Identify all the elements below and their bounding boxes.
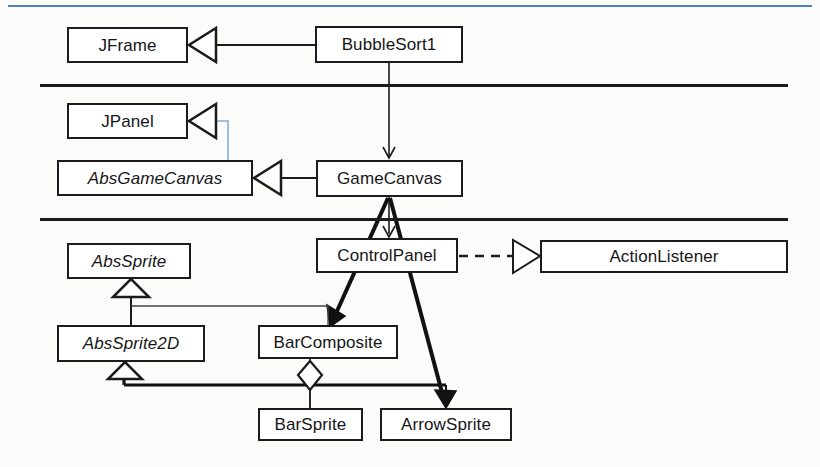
layer-separator-1 xyxy=(40,84,788,87)
class-name-bubblesort1: BubbleSort1 xyxy=(338,36,441,53)
connector-controlpanel-implements-actionlistener xyxy=(459,240,540,273)
layer-separator-2 xyxy=(40,218,788,221)
class-box-arrowsprite[interactable]: ArrowSprite xyxy=(380,408,512,441)
uml-diagram-canvas: GameCanvas (vertical open arrow) --> Con… xyxy=(0,0,820,467)
connector-bubblesort1-uses-gamecanvas xyxy=(383,63,395,158)
class-name-arrowsprite: ArrowSprite xyxy=(397,416,495,433)
class-box-abssprite2d[interactable]: AbsSprite2D xyxy=(57,325,205,362)
class-box-jpanel[interactable]: JPanel xyxy=(67,103,188,139)
class-box-absgamecanvas[interactable]: AbsGameCanvas xyxy=(57,160,253,196)
class-box-bubblesort1[interactable]: BubbleSort1 xyxy=(315,26,463,63)
class-box-controlpanel[interactable]: ControlPanel xyxy=(316,238,458,273)
top-blue-rule xyxy=(8,5,812,7)
connector-absgamecanvas-extends-jpanel xyxy=(189,104,228,160)
class-name-jpanel: JPanel xyxy=(97,113,158,130)
connector-sprites-extend-abssprite2d xyxy=(108,362,446,408)
connector-gamecanvas-uses-arrowsprite xyxy=(390,198,456,408)
connector-abssprite2d-extends-abssprite xyxy=(113,279,328,325)
connector-gamecanvas-extends-absgamecanvas xyxy=(254,161,316,195)
class-box-abssprite[interactable]: AbsSprite xyxy=(67,243,191,279)
class-box-barsprite[interactable]: BarSprite xyxy=(258,408,363,441)
class-name-controlpanel: ControlPanel xyxy=(333,247,440,264)
class-box-gamecanvas[interactable]: GameCanvas xyxy=(316,160,463,197)
class-name-gamecanvas: GameCanvas xyxy=(333,170,446,187)
class-name-abssprite: AbsSprite xyxy=(88,253,171,270)
class-box-barcomposite[interactable]: BarComposite xyxy=(258,325,398,359)
class-name-actionlistener: ActionListener xyxy=(605,248,722,265)
class-box-jframe[interactable]: JFrame xyxy=(67,27,188,63)
class-name-barcomposite: BarComposite xyxy=(270,334,387,351)
class-name-abssprite2d: AbsSprite2D xyxy=(79,335,184,352)
class-name-jframe: JFrame xyxy=(94,37,160,54)
class-name-barsprite: BarSprite xyxy=(271,416,351,433)
class-box-actionlistener[interactable]: ActionListener xyxy=(540,240,788,273)
class-name-absgamecanvas: AbsGameCanvas xyxy=(84,170,227,187)
relationship-connectors: GameCanvas (vertical open arrow) --> Con… xyxy=(0,0,820,467)
connector-bubblesort1-extends-jframe xyxy=(189,28,315,62)
